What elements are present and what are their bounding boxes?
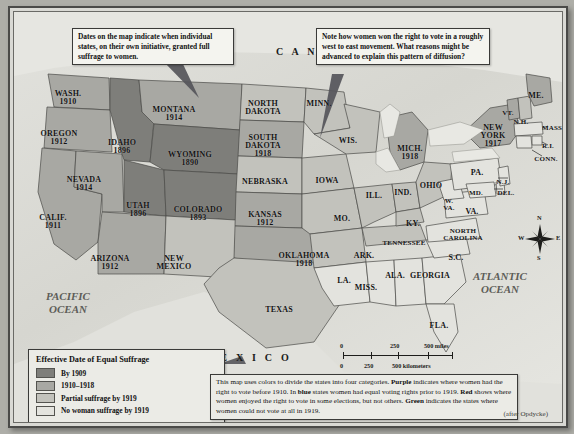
- legend-swatch-3: [36, 406, 55, 416]
- legend-label-0: By 1909: [61, 369, 86, 378]
- note-green: Green: [405, 397, 424, 405]
- state-name-line: IOWA: [315, 176, 338, 185]
- state-label-colorado: COLORADO1893: [168, 206, 228, 222]
- state-name-line: WIS.: [339, 136, 357, 145]
- state-label-w-va: W.VA.: [419, 198, 479, 212]
- state-label-ky: KY.: [383, 220, 443, 228]
- scale-tick-km-500: [428, 352, 429, 359]
- state-label-tennessee: TENNESSEE: [374, 240, 434, 247]
- note-purple: Purple: [391, 378, 412, 386]
- state-label-arizona: ARIZONA1912: [80, 255, 140, 271]
- legend-swatch-2: [36, 393, 55, 403]
- state-label-new-mexico: NEWMEXICO: [144, 255, 204, 271]
- state-label-minn: MINN.: [289, 100, 349, 108]
- scale-bar: 0 250 500 miles 0 250 500 kilometers: [340, 342, 456, 360]
- state-name-line: MINN.: [306, 99, 331, 108]
- legend-label-1: 1910–1918: [61, 381, 94, 390]
- state-suffrage-year: 1893: [168, 214, 228, 222]
- scale-km-0: 0: [340, 362, 343, 369]
- atlantic-line-2: OCEAN: [481, 283, 519, 295]
- state-name-line: KY.: [406, 219, 420, 228]
- legend-title: Effective Date of Equal Suffrage: [36, 355, 218, 364]
- state-name-line: ARK.: [354, 251, 375, 260]
- state-suffrage-year: 1918: [380, 153, 440, 161]
- state-label-iowa: IOWA: [297, 177, 357, 185]
- legend-swatch-0: [36, 368, 55, 378]
- state-suffrage-year: 1912: [235, 219, 295, 227]
- scale-km-250: 250: [364, 362, 373, 369]
- legend-item-3: No woman suffrage by 1919: [36, 406, 218, 416]
- legend-label-3: No woman suffrage by 1919: [61, 406, 149, 415]
- note-red: Red: [460, 388, 472, 396]
- state-suffrage-year: 1912: [80, 263, 140, 271]
- state-name-line: OHIO: [420, 181, 443, 190]
- state-label-kansas: KANSAS1912: [235, 211, 295, 227]
- state-name-line: GEORGIA: [410, 271, 450, 280]
- pacific-line-1: PACIFIC: [46, 290, 90, 302]
- state-label-south-dakota: SOUTHDAKOTA1918: [233, 134, 293, 158]
- callout-dates-note: Dates on the map indicate when individua…: [72, 28, 234, 65]
- map-frame: C A N A D A M E X I C O PACIFIC OCEAN AT…: [8, 6, 568, 428]
- state-suffrage-year: 1912: [29, 138, 89, 146]
- state-label-del: DEL.: [476, 190, 536, 197]
- state-name-line: VA.: [443, 204, 455, 212]
- state-name-line: PA.: [471, 168, 484, 177]
- state-name-line: VT.: [502, 109, 514, 117]
- state-name-line: S.C.: [448, 253, 463, 262]
- state-name-line: TEXAS: [265, 305, 293, 314]
- label-pacific-ocean: PACIFIC OCEAN: [28, 290, 108, 315]
- state-label-nevada: NEVADA1914: [54, 176, 114, 192]
- scale-miles-250: 250: [390, 342, 399, 349]
- pacific-line-2: OCEAN: [49, 303, 87, 315]
- state-label-ohio: OHIO: [401, 182, 461, 190]
- state-label-ind: IND.: [373, 189, 433, 197]
- map-legend: Effective Date of Equal Suffrage By 1909…: [28, 349, 225, 423]
- scale-tick-0: [343, 352, 344, 359]
- state-label-georgia: GEORGIA: [400, 272, 460, 280]
- state-name-line: CAROLINA: [443, 234, 483, 242]
- state-suffrage-year: 1918: [233, 150, 293, 158]
- note-blue: blue: [298, 388, 311, 396]
- state-name-line: MO.: [334, 214, 350, 223]
- note-seg-3: states women had equal voting rights pri…: [311, 388, 461, 396]
- state-suffrage-year: 1896: [108, 210, 168, 218]
- scale-miles-500: 500 miles: [424, 342, 449, 349]
- state-label-mich: MICH.1918: [380, 145, 440, 161]
- state-name-line: CONN.: [534, 155, 557, 163]
- scale-miles-0: 0: [340, 342, 343, 349]
- source-credit: (after Opdycke): [503, 410, 548, 418]
- callout-diffusion-note: Note how women won the right to vote in …: [316, 28, 490, 65]
- state-label-vt: VT.: [478, 110, 538, 117]
- state-name-line: DAKOTA: [245, 107, 281, 116]
- state-name-line: DEL.: [498, 189, 515, 197]
- state-alabama: [394, 258, 426, 306]
- state-label-ark: ARK.: [334, 252, 394, 260]
- state-name-line: FLA.: [430, 321, 449, 330]
- state-name-line: ME.: [528, 91, 544, 100]
- state-label-n-j: N.J.: [473, 179, 533, 186]
- legend-rows: By 19091910–1918Partial suffrage by 1919…: [35, 368, 218, 416]
- state-suffrage-year: 1914: [54, 184, 114, 192]
- state-suffrage-year: 1911: [23, 222, 83, 230]
- legend-item-0: By 1909: [36, 368, 218, 378]
- state-label-pa: PA.: [447, 169, 507, 177]
- state-name-line: R.I.: [542, 142, 554, 150]
- state-label-wash: WASH.1910: [38, 90, 98, 106]
- scale-km-500: 500 kilometers: [392, 362, 431, 369]
- note-seg-1: This map uses colors to divide the state…: [216, 378, 391, 386]
- legend-label-2: Partial suffrage by 1919: [61, 394, 137, 403]
- state-label-me: ME.: [506, 92, 563, 100]
- atlantic-line-1: ATLANTIC: [473, 270, 527, 282]
- map-canvas: C A N A D A M E X I C O PACIFIC OCEAN AT…: [13, 11, 563, 423]
- scale-tick-km-250: [371, 352, 372, 359]
- state-name-line: LA.: [337, 276, 351, 285]
- color-key-note: This map uses colors to divide the state…: [210, 374, 518, 420]
- state-label-oklahoma: OKLAHOMA1918: [274, 252, 334, 268]
- state-label-texas: TEXAS: [249, 306, 309, 314]
- state-label-north-carolina: NORTHCAROLINA: [433, 228, 493, 242]
- state-name-line: TENNESSEE: [382, 239, 425, 247]
- state-label-oregon: OREGON1912: [29, 130, 89, 146]
- state-label-mass: MASS.: [523, 125, 563, 132]
- state-label-utah: UTAH1896: [108, 202, 168, 218]
- scale-tick-mi-250: [398, 352, 399, 359]
